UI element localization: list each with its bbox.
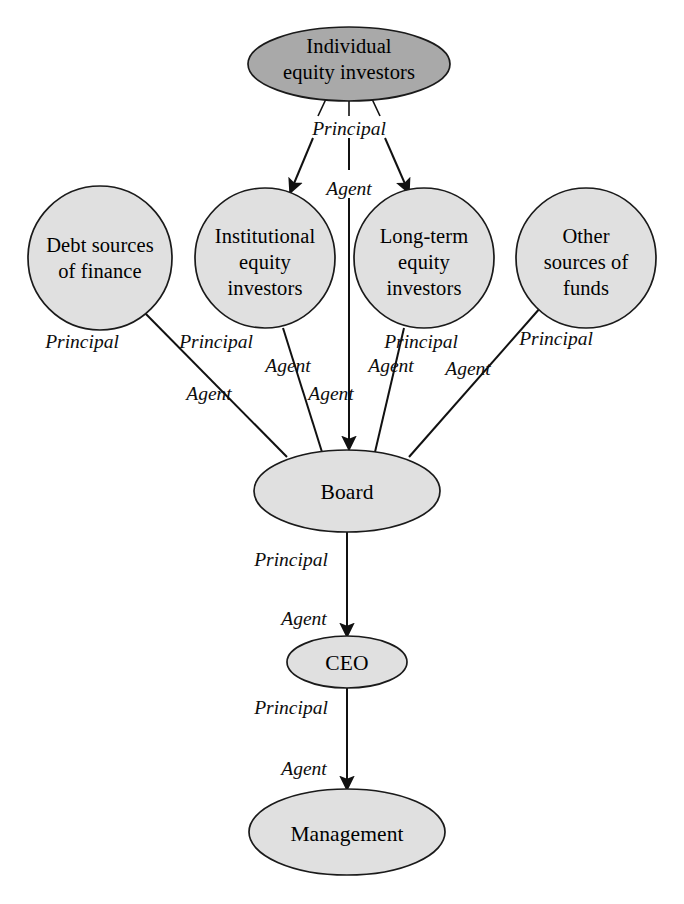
node-long-term-equity-investors[interactable]: Long-term equity investors [354,188,494,328]
role-label-principal-institutional: Principal [178,331,253,352]
ceo-label: CEO [325,651,368,675]
role-label-principal-top: Principal [311,118,386,139]
role-label-agent-top: Agent [324,178,372,199]
debt-sources-label-line2: of finance [58,260,142,282]
management-label: Management [290,822,403,846]
role-label-agent-other: Agent [443,358,491,379]
institutional-equity-label-line1: Institutional [215,225,316,247]
node-board[interactable]: Board [254,450,440,532]
other-sources-label-line2: sources of [544,251,629,273]
edge-top-to-institutional [290,138,313,193]
role-label-principal-ceo-mgmt: Principal [253,697,328,718]
edge-stub-right [372,99,380,116]
institutional-equity-label-line3: investors [228,277,303,299]
role-label-principal-debt: Principal [44,331,119,352]
individual-investors-label-line2: equity investors [283,61,415,84]
role-label-agent-board-ceo: Agent [279,608,327,629]
individual-investors-label-line1: Individual [306,35,391,57]
institutional-equity-label-line2: equity [239,251,291,274]
edges-to-board [141,307,541,457]
other-sources-label-line3: funds [563,277,609,299]
role-label-agent-debt: Agent [184,383,232,404]
role-label-agent-longterm: Agent [366,355,414,376]
role-label-agent-center: Agent [306,383,354,404]
long-term-equity-label-line1: Long-term [380,225,469,248]
governance-diagram: Individual equity investors Debt sources… [0,0,684,904]
edge-stub-left [318,99,326,116]
node-individual-equity-investors[interactable]: Individual equity investors [248,27,450,101]
board-label: Board [320,480,373,504]
role-label-principal-other: Principal [518,328,593,349]
role-label-principal-board-ceo: Principal [253,549,328,570]
role-label-principal-longterm: Principal [383,331,458,352]
node-debt-sources-of-finance[interactable]: Debt sources of finance [28,186,172,330]
diagram-canvas: Individual equity investors Debt sources… [0,0,684,904]
debt-sources-label-line1: Debt sources [46,234,154,256]
debt-sources-circle[interactable] [28,186,172,330]
node-ceo[interactable]: CEO [287,636,407,688]
edge-top-to-longterm [385,138,409,193]
role-label-agent-ceo-mgmt: Agent [279,758,327,779]
node-institutional-equity-investors[interactable]: Institutional equity investors [195,188,335,328]
node-management[interactable]: Management [249,789,445,875]
other-sources-label-line1: Other [562,225,609,247]
long-term-equity-label-line2: equity [398,251,450,274]
node-other-sources-of-funds[interactable]: Other sources of funds [516,188,656,328]
role-label-agent-institutional: Agent [263,355,311,376]
long-term-equity-label-line3: investors [387,277,462,299]
